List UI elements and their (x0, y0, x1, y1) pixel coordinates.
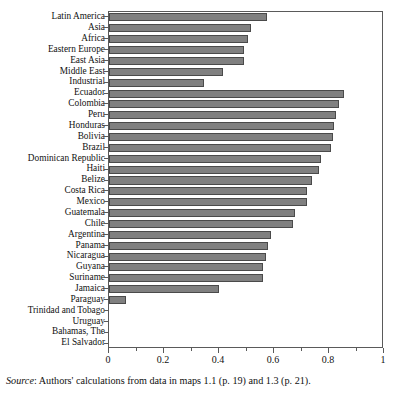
category-label: Suriname (0, 272, 105, 282)
bar (109, 166, 319, 174)
bar (109, 187, 307, 195)
bar (109, 68, 223, 76)
bar (109, 100, 339, 108)
x-axis-major-tick (383, 348, 384, 353)
category-label: Dominican Republic (0, 153, 105, 163)
category-label: Industrial (0, 76, 105, 86)
x-axis-major-tick (273, 348, 274, 353)
x-axis-major-tick (163, 348, 164, 353)
x-axis-minor-tick (246, 348, 247, 351)
x-axis-major-tick (108, 348, 109, 353)
x-axis-minor-tick (301, 348, 302, 351)
category-label: Jamaica (0, 283, 105, 293)
category-label: Africa (0, 33, 105, 43)
x-axis-tick-label: 1 (363, 354, 397, 365)
x-axis-tick-label: 0.4 (198, 354, 238, 365)
bar (109, 155, 321, 163)
category-label: Bolivia (0, 131, 105, 141)
category-label: Middle East (0, 66, 105, 76)
category-label: Honduras (0, 120, 105, 130)
x-axis-minor-tick (191, 348, 192, 351)
bar (109, 220, 293, 228)
bar (109, 176, 312, 184)
bar (109, 133, 333, 141)
bar (109, 253, 266, 261)
bar (109, 79, 204, 87)
x-axis-tick-label: 0.6 (253, 354, 293, 365)
bar (109, 285, 219, 293)
category-label: Panama (0, 240, 105, 250)
category-label: Belize (0, 174, 105, 184)
bar (109, 263, 263, 271)
source-label: Source (6, 375, 34, 386)
category-label: East Asia (0, 55, 105, 65)
category-label: Latin America (0, 11, 105, 21)
chart-figure: Latin AmericaAsiaAfricaEastern EuropeEas… (0, 0, 397, 396)
x-axis-minor-tick (356, 348, 357, 351)
category-label: Bahamas, The (0, 326, 105, 336)
category-label: Paraguay (0, 294, 105, 304)
plot-area (108, 11, 383, 348)
category-label: Nicaragua (0, 250, 105, 260)
category-label: Guatemala (0, 207, 105, 217)
category-label: Costa Rica (0, 185, 105, 195)
x-axis-tick-label: 0 (88, 354, 128, 365)
category-label: Colombia (0, 98, 105, 108)
category-label: Haiti (0, 163, 105, 173)
bar (109, 231, 271, 239)
category-label: Ecuador (0, 87, 105, 97)
category-label: Uruguay (0, 316, 105, 326)
category-label: Argentina (0, 229, 105, 239)
bar (109, 296, 126, 304)
bar (109, 46, 244, 54)
x-axis-tick-label: 0.2 (143, 354, 183, 365)
category-label: Trinidad and Tobago (0, 305, 105, 315)
category-label: Peru (0, 109, 105, 119)
bar (109, 122, 334, 130)
x-axis-tick-label: 0.8 (308, 354, 348, 365)
bar (109, 24, 251, 32)
source-separator: : (34, 375, 37, 386)
bar (109, 13, 267, 21)
bars-layer (109, 12, 382, 347)
bar (109, 274, 263, 282)
bar (109, 111, 336, 119)
category-label: Mexico (0, 196, 105, 206)
bar (109, 57, 244, 65)
category-label: Brazil (0, 142, 105, 152)
bar (109, 90, 344, 98)
x-axis-major-tick (328, 348, 329, 353)
source-text: Authors' calculations from data in maps … (39, 375, 311, 386)
bar (109, 209, 295, 217)
category-label: El Salvador (0, 337, 105, 347)
category-label: Asia (0, 22, 105, 32)
x-axis-minor-tick (136, 348, 137, 351)
bar (109, 198, 307, 206)
source-note: Source: Authors' calculations from data … (6, 375, 396, 386)
category-label: Chile (0, 218, 105, 228)
category-label: Eastern Europe (0, 44, 105, 54)
x-axis-major-tick (218, 348, 219, 353)
bar (109, 144, 331, 152)
category-label: Guyana (0, 261, 105, 271)
bar (109, 35, 248, 43)
bar (109, 242, 268, 250)
y-axis-category-labels: Latin AmericaAsiaAfricaEastern EuropeEas… (0, 11, 105, 348)
